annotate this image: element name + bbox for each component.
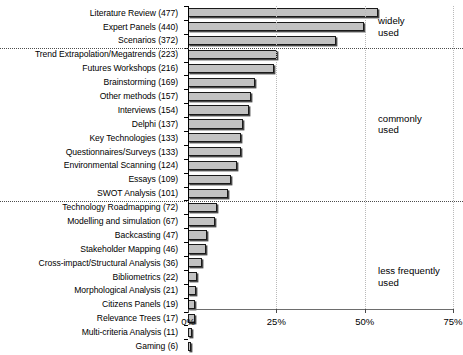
category-label: Other methods (157) xyxy=(0,89,182,103)
bar-row xyxy=(188,89,453,103)
category-label: Technology Roadmapping (72) xyxy=(0,200,182,214)
bar xyxy=(188,105,249,114)
plot-area xyxy=(188,6,453,309)
bar xyxy=(188,328,192,337)
bar xyxy=(188,258,202,267)
bar-row xyxy=(188,145,453,159)
bar-row xyxy=(188,242,453,256)
bar xyxy=(188,272,197,281)
category-label: Futures Workshops (216) xyxy=(0,62,182,76)
bar-row xyxy=(188,339,453,353)
category-label: SWOT Analysis (101) xyxy=(0,187,182,201)
category-label: Interviews (154) xyxy=(0,103,182,117)
bar xyxy=(188,244,206,253)
category-label: Modelling and simulation (67) xyxy=(0,214,182,228)
x-gridline xyxy=(365,6,366,309)
bar xyxy=(188,92,251,101)
bar xyxy=(188,300,195,309)
bar-row xyxy=(188,312,453,326)
category-label: Cross-impact/Structural Analysis (36) xyxy=(0,256,182,270)
category-label: Brainstorming (169) xyxy=(0,75,182,89)
bar xyxy=(188,175,231,184)
category-label: Morphological Analysis (21) xyxy=(0,284,182,298)
category-label: Relevance Trees (17) xyxy=(0,312,182,326)
category-axis-labels: Literature Review (477)Expert Panels (44… xyxy=(0,6,182,309)
bar-row xyxy=(188,228,453,242)
x-axis-tick-label: 0% xyxy=(181,316,195,327)
group-separator xyxy=(0,48,463,49)
bar-row xyxy=(188,159,453,173)
x-axis-tick-label: 25% xyxy=(267,316,286,327)
bar-row xyxy=(188,34,453,48)
x-axis-tick xyxy=(365,309,366,313)
x-gridline xyxy=(276,6,277,309)
bar-row xyxy=(188,48,453,62)
bar xyxy=(188,217,215,226)
category-label: Questionnaires/Surveys (133) xyxy=(0,145,182,159)
category-label: Multi-criteria Analysis (11) xyxy=(0,325,182,339)
x-axis-tick-label: 75% xyxy=(443,316,462,327)
bar xyxy=(188,133,241,142)
category-label: Essays (109) xyxy=(0,173,182,187)
category-label: Expert Panels (440) xyxy=(0,20,182,34)
category-label: Bibliometrics (22) xyxy=(0,270,182,284)
group-annotation: commonly used xyxy=(378,113,422,136)
category-label: Backcasting (47) xyxy=(0,228,182,242)
category-label: Trend Extrapolation/Megatrends (223) xyxy=(0,48,182,62)
bar xyxy=(188,161,237,170)
category-label: Environmental Scanning (124) xyxy=(0,159,182,173)
bar-row xyxy=(188,214,453,228)
bar-row xyxy=(188,6,453,20)
bar-row xyxy=(188,173,453,187)
bar xyxy=(188,147,241,156)
x-axis-line xyxy=(188,309,453,310)
y-axis-line xyxy=(188,6,189,309)
foresight-methods-bar-chart: Literature Review (477)Expert Panels (44… xyxy=(0,0,463,355)
category-label: Literature Review (477) xyxy=(0,6,182,20)
bar-row xyxy=(188,187,453,201)
bar xyxy=(188,189,228,198)
bar-rows xyxy=(188,6,453,353)
bar xyxy=(188,36,336,45)
bar xyxy=(188,50,277,59)
bar-row xyxy=(188,200,453,214)
bar xyxy=(188,64,274,73)
bar xyxy=(188,8,378,17)
x-axis-tick-label: 50% xyxy=(355,316,374,327)
category-label: Gaming (6) xyxy=(0,339,182,353)
category-label: Citizens Panels (19) xyxy=(0,298,182,312)
x-axis-tick xyxy=(188,309,189,313)
bar xyxy=(188,286,196,295)
bar-row xyxy=(188,325,453,339)
x-axis-tick xyxy=(453,309,454,313)
category-label: Stakeholder Mapping (46) xyxy=(0,242,182,256)
bar xyxy=(188,342,191,351)
bar xyxy=(188,203,217,212)
bar-row xyxy=(188,20,453,34)
category-label: Key Technologies (133) xyxy=(0,131,182,145)
bar xyxy=(188,78,255,87)
category-label: Delphi (137) xyxy=(0,117,182,131)
group-separator xyxy=(0,201,463,202)
x-axis-tick xyxy=(276,309,277,313)
group-annotation: widely used xyxy=(378,15,405,38)
bar xyxy=(188,119,243,128)
bar xyxy=(188,230,207,239)
group-annotation: less frequently used xyxy=(378,265,440,288)
bar-row xyxy=(188,75,453,89)
category-label: Scenarios (372) xyxy=(0,34,182,48)
bar-row xyxy=(188,62,453,76)
x-gridline xyxy=(453,6,454,309)
